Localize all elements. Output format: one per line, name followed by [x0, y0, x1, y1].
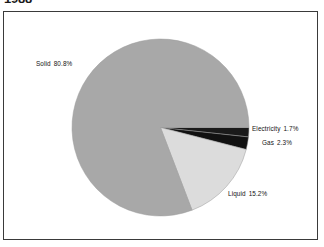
- pie-label-electricity-name: Electricity: [252, 125, 280, 132]
- pie-label-solid-value: 80.8%: [54, 60, 73, 67]
- pie-label-gas-name: Gas: [262, 139, 274, 146]
- pie-label-liquid-name: Liquid: [228, 190, 246, 197]
- page-title: 1988: [4, 0, 32, 6]
- pie-label-gas: Gas2.3%: [262, 139, 292, 146]
- pie-label-electricity-value: 1.7%: [283, 125, 298, 132]
- pie-label-liquid-value: 15.2%: [249, 190, 268, 197]
- pie-label-solid: Solid80.8%: [36, 60, 72, 67]
- chart-page: 1988 Solid80.8% Electricity1.7% Gas2.3% …: [0, 0, 324, 247]
- pie-label-solid-name: Solid: [36, 60, 51, 67]
- pie-label-liquid: Liquid15.2%: [228, 190, 267, 197]
- pie-label-gas-value: 2.3%: [277, 139, 292, 146]
- pie-label-electricity: Electricity1.7%: [252, 125, 298, 132]
